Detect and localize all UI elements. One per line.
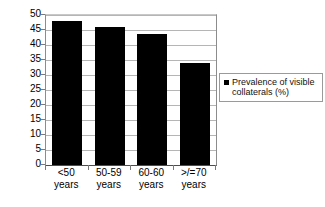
x-tick-label: <50years xyxy=(45,167,88,207)
y-tick-label: 45 xyxy=(5,24,41,34)
y-tick-label: 15 xyxy=(5,114,41,124)
legend-label: Prevalence of visiblecollaterals (%) xyxy=(232,77,315,97)
y-tick-mark xyxy=(41,59,45,60)
y-tick-mark xyxy=(41,134,45,135)
y-tick-label: 0 xyxy=(5,159,41,169)
bar xyxy=(95,27,125,165)
x-tick-mark xyxy=(173,165,174,170)
bar-chart: 05101520253035404550 <50years50-59years6… xyxy=(0,0,325,207)
x-tick-mark xyxy=(215,165,216,170)
legend-swatch-icon xyxy=(224,80,229,85)
y-tick-label: 20 xyxy=(5,99,41,109)
bar xyxy=(52,21,82,165)
y-tick-mark xyxy=(41,14,45,15)
gridline xyxy=(46,15,216,16)
y-tick-label: 25 xyxy=(5,84,41,94)
y-tick-label: 10 xyxy=(5,129,41,139)
y-axis: 05101520253035404550 xyxy=(0,0,41,207)
x-tick-mark xyxy=(45,165,46,170)
legend-item: Prevalence of visiblecollaterals (%) xyxy=(224,77,319,97)
y-tick-label: 50 xyxy=(5,9,41,19)
bar xyxy=(137,34,167,165)
y-tick-label: 40 xyxy=(5,39,41,49)
y-tick-mark xyxy=(41,89,45,90)
y-tick-mark xyxy=(41,74,45,75)
x-tick-mark xyxy=(130,165,131,170)
y-tick-label: 30 xyxy=(5,69,41,79)
y-tick-mark xyxy=(41,149,45,150)
x-tick-label: 60-60years xyxy=(130,167,173,207)
x-tick-label: 50-59years xyxy=(88,167,131,207)
bar xyxy=(180,63,210,165)
plot-area xyxy=(45,14,217,166)
x-axis: <50years50-59years60-60years>/=70years xyxy=(45,167,215,207)
legend: Prevalence of visiblecollaterals (%) xyxy=(219,73,323,102)
y-tick-mark xyxy=(41,29,45,30)
y-tick-label: 35 xyxy=(5,54,41,64)
x-tick-label: >/=70years xyxy=(173,167,216,207)
y-tick-mark xyxy=(41,44,45,45)
x-tick-mark xyxy=(88,165,89,170)
y-tick-mark xyxy=(41,119,45,120)
y-tick-mark xyxy=(41,104,45,105)
y-tick-label: 5 xyxy=(5,144,41,154)
